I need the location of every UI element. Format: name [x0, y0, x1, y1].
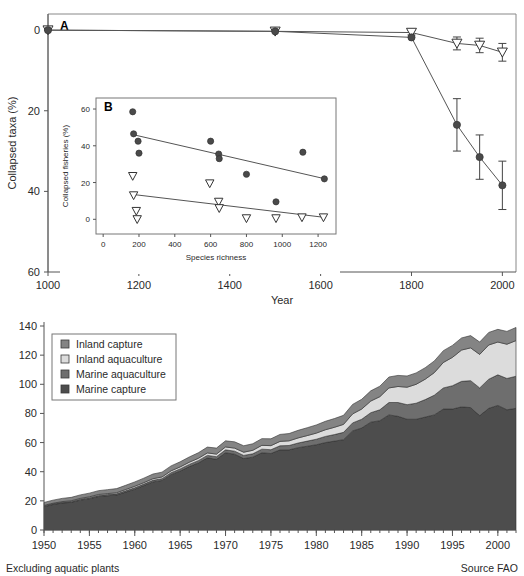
data-marker-filled-circle: [130, 109, 136, 115]
data-marker-filled-circle: [135, 138, 141, 144]
data-marker-filled-circle: [273, 199, 279, 205]
panel-b-ytick-label: 40: [81, 142, 90, 151]
data-marker-open-triangle: [497, 48, 507, 57]
legend-swatch: [61, 385, 69, 393]
panel-c-ytick-label: 100: [19, 378, 37, 390]
figure-root: 0204060100012001400160018002000Collapsed…: [0, 0, 524, 576]
legend-item[interactable]: Inland aquaculture: [61, 353, 163, 365]
panel-c-xtick-label: 2000: [486, 539, 510, 551]
panel-b-x-axis-title: Species richness: [186, 253, 246, 262]
data-marker-filled-circle: [300, 149, 306, 155]
panel-a-container: 0204060100012001400160018002000Collapsed…: [0, 0, 524, 308]
panel-c-ytick-label: 60: [25, 437, 37, 449]
panel-a-xtick-label: 1000: [36, 279, 60, 291]
panel-c-ytick-label: 140: [19, 320, 37, 332]
panel-b-xtick-label: 0: [101, 240, 106, 249]
legend-swatch: [61, 355, 69, 363]
data-marker-filled-circle: [272, 28, 279, 35]
panel-c-ytick-label: 80: [25, 407, 37, 419]
data-marker-filled-circle: [476, 154, 483, 161]
data-marker-filled-circle: [216, 156, 222, 162]
data-marker-filled-circle: [131, 131, 137, 137]
panel-a-ytick-label: 0: [34, 24, 40, 36]
legend-label: Marine aquaculture: [76, 368, 166, 380]
panel-a-xtick-label: 1400: [218, 279, 242, 291]
panel-b-xtick-label: 1200: [309, 240, 327, 249]
legend-swatch: [61, 370, 69, 378]
area-series-marine-capture: [44, 405, 516, 530]
panel-c-xtick-label: 1970: [213, 539, 237, 551]
panel-a-ytick-label: 40: [28, 185, 40, 197]
panel-a-ytick-label: 60: [28, 266, 40, 278]
panel-b-xtick-label: 400: [168, 240, 182, 249]
panel-a-xtick-label: 1200: [127, 279, 151, 291]
panel-c-ytick-label: 120: [19, 349, 37, 361]
data-marker-filled-circle: [208, 138, 214, 144]
panel-a-chart: 0204060100012001400160018002000Collapsed…: [0, 0, 524, 308]
legend-item[interactable]: Marine aquaculture: [61, 368, 166, 380]
data-marker-filled-circle: [44, 27, 51, 34]
data-marker-open-triangle: [475, 41, 485, 50]
panel-c-xtick-label: 1960: [123, 539, 147, 551]
panel-b-xtick-label: 1000: [273, 240, 291, 249]
panel-a-ytick-label: 20: [28, 105, 40, 117]
panel-b-xtick-label: 800: [240, 240, 254, 249]
data-marker-filled-circle: [453, 121, 460, 128]
panel-c-xtick-label: 1955: [77, 539, 101, 551]
panel-c-xtick-label: 1950: [32, 539, 56, 551]
panel-b-ytick-label: 20: [81, 179, 90, 188]
data-marker-filled-circle: [408, 34, 415, 41]
data-marker-filled-circle: [499, 182, 506, 189]
panel-c-ytick-label: 40: [25, 466, 37, 478]
panel-c-legend: Inland captureInland aquacultureMarine a…: [52, 334, 176, 400]
panel-b-ytick-label: 60: [81, 105, 90, 114]
panel-c-chart: 0204060801001201401950195519601965197019…: [0, 308, 524, 576]
panel-a-y-axis-title: Collapsed taxa (%): [6, 97, 18, 190]
legend-label: Inland aquaculture: [76, 353, 163, 365]
panel-b-ytick-label: 0: [86, 215, 91, 224]
footnote-left: Excluding aquatic plants: [6, 562, 119, 574]
panel-a-xtick-label: 2000: [490, 279, 514, 291]
data-marker-filled-circle: [243, 171, 249, 177]
panel-b-inset: 0204060020040060080010001200Collapsed fi…: [60, 94, 340, 274]
panel-b-xtick-label: 200: [132, 240, 146, 249]
panel-b-y-axis-title: Collapsed fisheries (%): [61, 125, 70, 208]
panel-c-ytick-label: 0: [31, 524, 37, 536]
panel-a-xtick-label: 1800: [399, 279, 423, 291]
panel-c-xtick-label: 1980: [304, 539, 328, 551]
panel-c-container: 0204060801001201401950195519601965197019…: [0, 308, 524, 576]
legend-swatch: [61, 340, 69, 348]
legend-label: Inland capture: [76, 338, 143, 350]
footnote-right: Source FAO: [461, 562, 518, 574]
panel-c-xtick-label: 1975: [259, 539, 283, 551]
panel-a-letter: A: [60, 19, 69, 33]
panel-c-xtick-label: 1965: [168, 539, 192, 551]
panel-c-ytick-label: 20: [25, 495, 37, 507]
panel-b-letter: B: [104, 100, 113, 114]
panel-b-xtick-label: 600: [204, 240, 218, 249]
panel-c-xtick-label: 1995: [440, 539, 464, 551]
legend-label: Marine capture: [76, 383, 146, 395]
panel-a-x-axis-title: Year: [271, 294, 294, 306]
data-marker-filled-circle: [136, 150, 142, 156]
data-marker-filled-circle: [321, 176, 327, 182]
panel-a-xtick-label: 1600: [308, 279, 332, 291]
panel-c-xtick-label: 1985: [349, 539, 373, 551]
panel-c-xtick-label: 1990: [395, 539, 419, 551]
